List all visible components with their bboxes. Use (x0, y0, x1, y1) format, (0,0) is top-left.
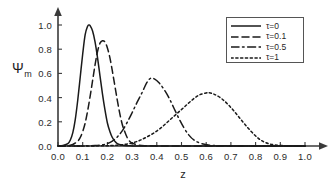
legend-entry[interactable]: τ=0.5 (231, 42, 299, 52)
x-tick-label: 0.2 (100, 151, 114, 162)
y-tick-label: 0.4 (30, 92, 52, 103)
x-tick-label: 0.6 (199, 151, 213, 162)
y-axis-title-subscript: m (24, 69, 32, 79)
x-axis-title: z (180, 168, 186, 180)
x-tick-label: 0.9 (273, 151, 287, 162)
legend-label: τ=0 (266, 22, 279, 31)
legend-label: τ=0.1 (266, 32, 286, 41)
x-tick-label: 0.0 (51, 151, 65, 162)
x-tick-label: 0.5 (175, 151, 189, 162)
x-tick-label: 1.0 (298, 151, 312, 162)
legend-line-swatch (231, 54, 261, 62)
legend-entry[interactable]: τ=0.1 (231, 32, 299, 42)
legend-entry[interactable]: τ=0 (231, 21, 299, 31)
curve-series-2 (58, 78, 305, 146)
y-tick-label: 0.2 (30, 116, 52, 127)
legend-entry[interactable]: τ=1 (231, 53, 299, 63)
x-tick-label: 0.4 (150, 151, 164, 162)
legend-line-swatch (231, 33, 261, 41)
y-axis-title: Ψm (12, 61, 32, 79)
y-tick-label: 0.8 (30, 44, 52, 55)
y-tick-label: 1.0 (30, 20, 52, 31)
chart-figure: 0.00.10.20.30.40.50.60.70.80.91.0 0.00.2… (0, 0, 336, 186)
legend-line-swatch (231, 22, 261, 30)
y-tick-label: 0.6 (30, 68, 52, 79)
legend-label: τ=1 (266, 53, 279, 62)
x-tick-label: 0.3 (125, 151, 139, 162)
curve-series-3 (58, 93, 305, 146)
x-tick-label: 0.7 (224, 151, 238, 162)
x-tick-label: 0.8 (249, 151, 263, 162)
legend-box: τ=0τ=0.1τ=0.5τ=1 (226, 17, 304, 63)
y-axis-arrowhead (54, 7, 62, 16)
x-axis-arrowhead (319, 142, 328, 150)
x-tick-label: 0.1 (76, 151, 90, 162)
y-axis-title-base: Ψ (12, 60, 24, 76)
legend-label: τ=0.5 (266, 43, 286, 52)
legend-line-swatch (231, 43, 261, 51)
y-tick-label: 0.0 (30, 141, 52, 152)
